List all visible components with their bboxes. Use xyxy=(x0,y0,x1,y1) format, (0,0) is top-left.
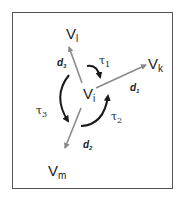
rotation-label-tau2: τ2 xyxy=(111,111,122,125)
rotation-label-tau3: τ3 xyxy=(36,105,47,119)
node-label-vl: Vl xyxy=(66,26,78,44)
edge-d2-arrow xyxy=(65,108,81,148)
edge-d3-arrow xyxy=(69,47,82,83)
node-label-vm: Vm xyxy=(48,163,66,181)
node-label-vi: Vi xyxy=(83,86,95,104)
node-label-vk: Vk xyxy=(148,56,163,74)
rotation-tau3-arrow xyxy=(60,75,69,121)
edge-label-d1: d1 xyxy=(130,83,139,94)
rotation-label-tau1: τ1 xyxy=(99,55,110,69)
edge-label-d2: d2 xyxy=(83,140,92,151)
edge-label-d3: d3 xyxy=(57,58,66,69)
